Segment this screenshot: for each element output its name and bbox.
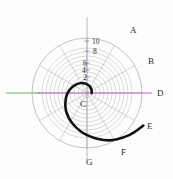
polar-spiral-figure: ABCDEFG 246810 (0, 0, 173, 179)
grid-spoke (87, 45, 115, 93)
grid-spoke (87, 93, 135, 121)
annotation-label-e: E (147, 122, 153, 131)
annotation-label-b: B (148, 57, 154, 66)
radial-tick-label: 4 (82, 67, 86, 75)
annotation-label-a: A (130, 26, 137, 35)
grid-spoke (87, 66, 135, 94)
radial-tick-label: 2 (83, 74, 87, 82)
radial-tick-label: 6 (83, 60, 87, 68)
annotation-label-d: D (157, 89, 164, 98)
polar-plot-canvas (0, 0, 173, 179)
grid-spoke (39, 66, 87, 94)
annotation-label-c: C (80, 100, 86, 109)
polar-grid-spokes (32, 17, 142, 160)
annotation-label-g: G (86, 158, 93, 167)
grid-spoke (87, 93, 115, 141)
radial-tick-label: 8 (93, 48, 97, 56)
annotation-label-f: F (121, 148, 126, 157)
radial-tick-label: 10 (92, 38, 100, 46)
